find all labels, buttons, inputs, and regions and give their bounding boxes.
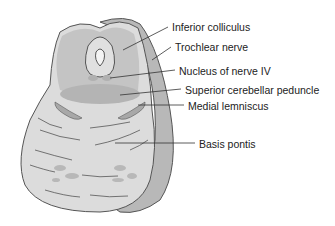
label-nucleus-nerve-iv: Nucleus of nerve IV	[179, 66, 271, 77]
label-basis-pontis: Basis pontis	[199, 139, 256, 150]
label-inferior-colliculus: Inferior colliculus	[172, 22, 250, 33]
label-medial-lemniscus: Medial lemniscus	[188, 101, 269, 112]
nucleus-nerve-iv-shape	[88, 75, 98, 81]
label-trochlear-nerve: Trochlear nerve	[175, 42, 248, 53]
label-superior-cerebellar-peduncle: Superior cerebellar peduncle	[185, 85, 319, 96]
brainstem-diagram	[0, 0, 335, 226]
